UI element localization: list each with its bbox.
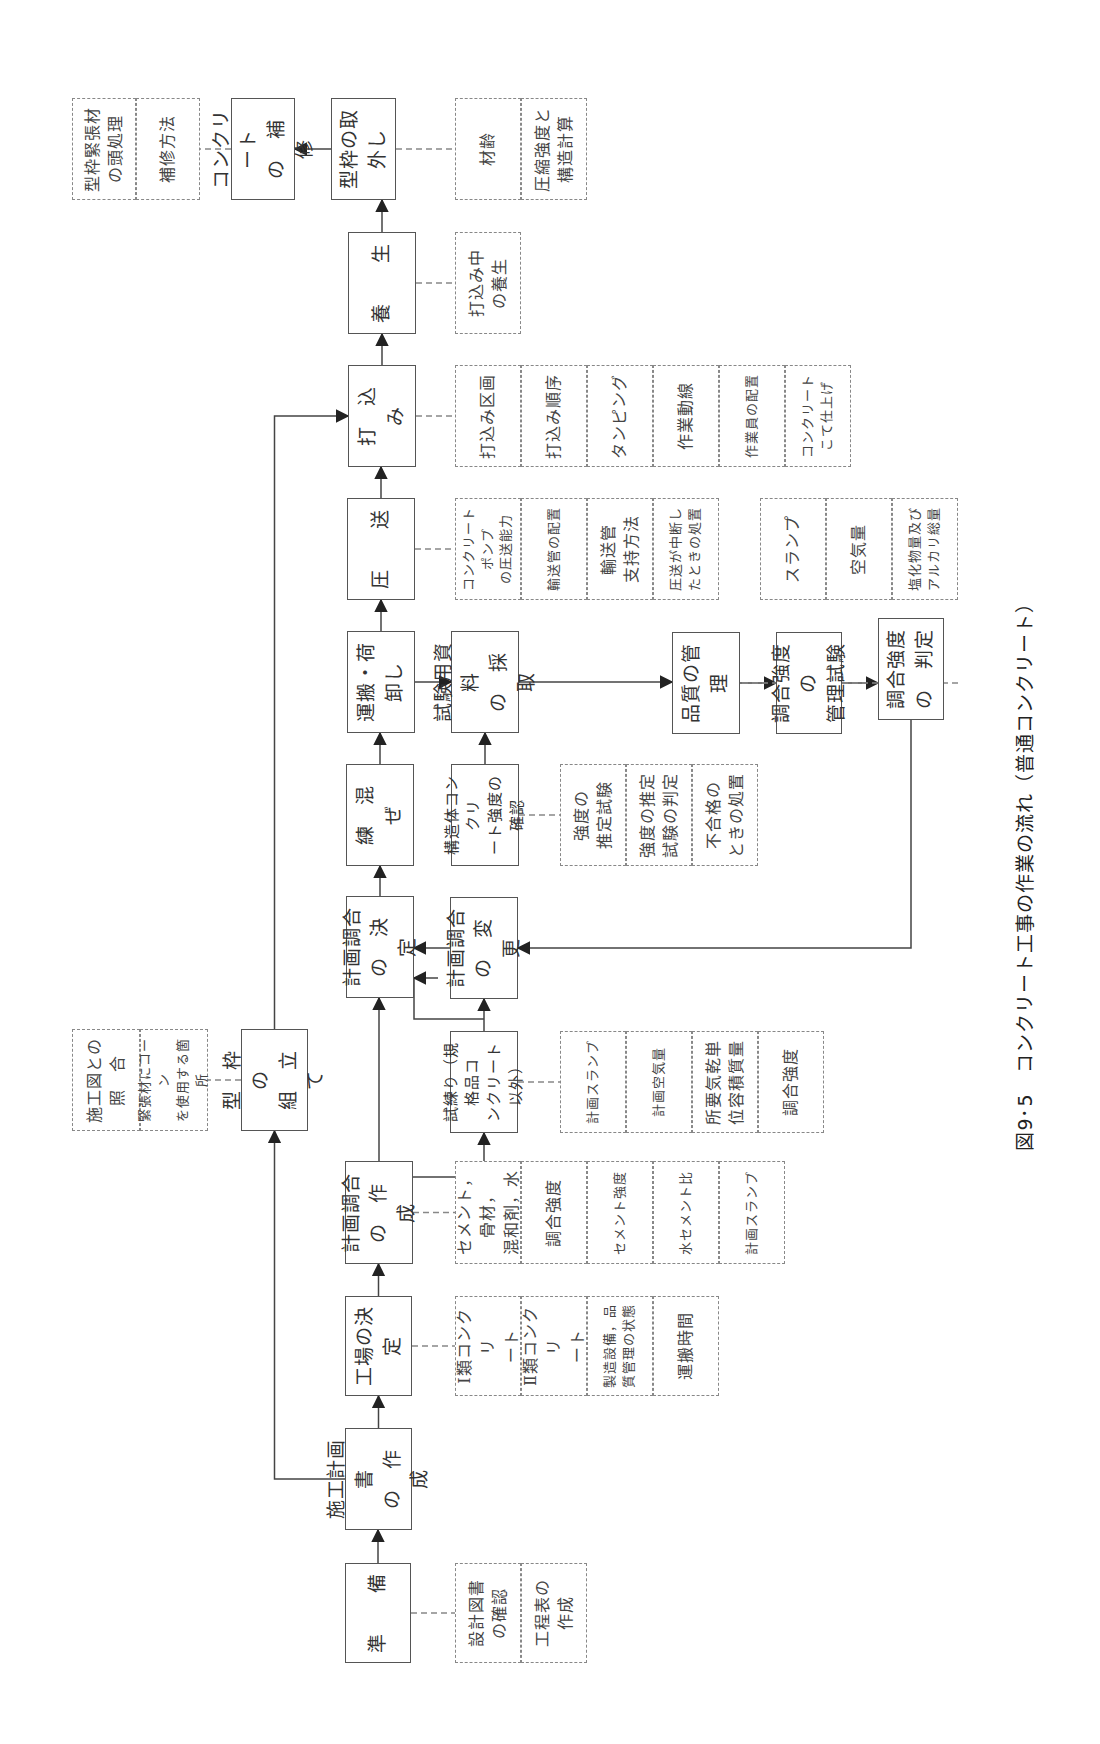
detail-item: 所要気乾単 位容積質量 [692, 1031, 758, 1133]
detail-item: 設計図書 の確認 [455, 1563, 521, 1663]
detail-item: 空気量 [826, 498, 892, 600]
node-mix-strength-control-test: 調合強度の 管理試験 [776, 632, 842, 734]
detail-item: 製造設備，品 質管理の状態 [587, 1296, 653, 1396]
detail-item: コンクリートポンプ の圧送能力 [455, 498, 521, 600]
flow-arrow [275, 416, 349, 1029]
detail-item: 材齢 [455, 98, 521, 200]
detail-item: 作業員の配置 [719, 365, 785, 467]
detail-item: 打込み中 の養生 [455, 232, 521, 334]
detail-item: タンピング [587, 365, 653, 467]
node-mix-plan-change: 計画調合 の 変 更 [450, 897, 518, 999]
node-mix-plan-decision: 計画調合 の 決 定 [346, 896, 414, 998]
node-trial-mixing: 試練り（規格品コ ンクリート以外） [450, 1031, 518, 1133]
detail-item: 調合強度 [521, 1161, 587, 1264]
node-pumping: 圧 送 [347, 498, 415, 600]
detail-item: セメント強度 [587, 1161, 653, 1264]
detail-item: 強度の推定 試験の判定 [626, 764, 692, 866]
detail-item: 型枠緊張材 の頭処理 [72, 98, 136, 200]
node-mix-plan-creation: 計画調合 の 作 成 [345, 1161, 413, 1264]
node-test-sampling: 試験用資料 の 採 取 [451, 631, 519, 733]
detail-item: 作業動線 [653, 365, 719, 467]
detail-item: Ⅱ類コンクリ ート [521, 1296, 587, 1396]
node-structural-strength-check: 構造体コンクリ ート強度の確認 [451, 764, 519, 866]
detail-item: 塩化物量及び アルカリ総量 [892, 498, 958, 600]
detail-item: 工程表の 作成 [521, 1563, 587, 1663]
flow-arrow [275, 1131, 346, 1479]
detail-item: 打込み区画 [455, 365, 521, 467]
node-construction-plan: 施工計画書 の 作 成 [345, 1428, 412, 1530]
detail-item: スランプ [760, 498, 826, 600]
node-placing: 打 込 み [348, 365, 416, 467]
detail-item: 輸送管 支持方法 [587, 498, 653, 600]
node-mixing: 練 混 ぜ [346, 764, 414, 866]
node-concrete-repair: コンクリート の 補 修 [231, 98, 295, 200]
node-quality-control: 品質の管理 [672, 632, 740, 734]
detail-item: 水セメント比 [653, 1161, 719, 1264]
detail-item: 不合格の ときの処置 [692, 764, 758, 866]
flowchart-stage: 準 備 施工計画書 の 作 成 工場の決定 計画調合 の 作 成 計画調合 の … [0, 0, 1100, 1744]
node-formwork-assembly: 型 枠 の 組 立 て [241, 1029, 308, 1131]
detail-item: コンクリート こて仕上げ [785, 365, 851, 467]
detail-item: 強度の 推定試験 [560, 764, 626, 866]
detail-item: セメント，骨材， 混和剤，水 [455, 1161, 521, 1264]
figure-caption: 図9･5 コンクリート工事の作業の流れ（普通コンクリート） [1010, 0, 1037, 1744]
detail-item: Ⅰ類コンクリ ート [455, 1296, 521, 1396]
detail-item: 緊張材にコーン を使用する箇所 [140, 1029, 208, 1131]
detail-item: 輸送管の配置 [521, 498, 587, 600]
detail-item: 計画空気量 [626, 1031, 692, 1133]
detail-item: 調合強度 [758, 1031, 824, 1133]
detail-item: 補修方法 [136, 98, 200, 200]
detail-item: 圧送が中断し たときの処置 [653, 498, 719, 600]
detail-item: 計画スランプ [560, 1031, 626, 1133]
node-curing: 養 生 [348, 232, 416, 334]
detail-item: 運搬時間 [653, 1296, 719, 1396]
connector-layer [0, 0, 1100, 1744]
node-mix-strength-judgement: 調合強度 の 判定 [878, 618, 944, 720]
detail-item: 圧縮強度と 構造計算 [521, 98, 587, 200]
node-formwork-removal: 型枠の取外し [331, 98, 396, 200]
node-plant-selection: 工場の決定 [345, 1296, 412, 1396]
node-transport-unloading: 運搬・荷卸し [347, 631, 415, 733]
node-preparation: 準 備 [345, 1563, 411, 1663]
detail-item: 計画スランプ [719, 1161, 785, 1264]
detail-item: 施工図との 照 合 [72, 1029, 140, 1131]
detail-item: 打込み順序 [521, 365, 587, 467]
